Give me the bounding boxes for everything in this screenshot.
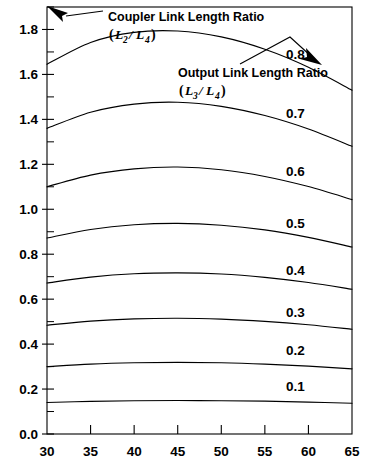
coupler-formula-denominator: L: [135, 27, 144, 42]
y-axis-tick-label: 0.6: [19, 292, 38, 307]
y-axis-tick-label: 0.8: [19, 247, 38, 262]
output-formula-close-paren: ): [221, 83, 226, 99]
coupler-formula-denominator-subscript: 4: [144, 35, 150, 45]
y-axis-tick-label: 1.6: [19, 67, 38, 82]
x-axis-tick-label: 65: [344, 444, 360, 459]
curve-label: 0.6: [286, 164, 305, 179]
coupler-formula-numerator-subscript: 2: [122, 35, 128, 45]
y-axis-tick-label: 1.8: [19, 22, 38, 37]
output-formula-denominator: L: [205, 83, 214, 98]
coupler-formula-numerator: L: [114, 27, 123, 42]
curve-label: 0.3: [286, 305, 305, 320]
curve-label: 0.2: [286, 343, 305, 358]
x-axis-tick-label: 60: [301, 444, 316, 459]
output-formula-denominator-subscript: 4: [214, 91, 220, 101]
curve-label: 0.5: [286, 216, 305, 231]
x-axis-tick-label: 40: [127, 444, 142, 459]
coupler-annotation-line1: Coupler Link Length Ratio: [108, 10, 265, 24]
x-axis-tick-label: 35: [83, 444, 99, 459]
output-formula-open-paren: (: [179, 83, 184, 99]
chart-plot-svg: 0.00.20.40.60.81.01.21.41.61.8 303540455…: [0, 0, 366, 474]
y-axis-tick-label: 1.2: [19, 157, 38, 172]
y-axis-tick-label: 0.2: [19, 382, 38, 397]
x-axis-tick-label: 30: [39, 444, 54, 459]
output-annotation-line1: Output Link Length Ratio: [178, 66, 328, 80]
y-axis-tick-label: 0.4: [19, 337, 38, 352]
x-axis-tick-label: 50: [214, 444, 229, 459]
coupler-formula-open-paren: (: [109, 27, 114, 43]
curve-label: 0.7: [286, 106, 305, 121]
y-axis-tick-label: 0.0: [19, 427, 38, 442]
x-axis-tick-label: 45: [170, 444, 186, 459]
output-formula-numerator-subscript: 3: [192, 91, 198, 101]
curve-label: 0.1: [286, 379, 305, 394]
curve-label: 0.4: [286, 263, 305, 278]
x-axis-tick-label: 55: [257, 444, 273, 459]
y-axis-tick-label: 1.4: [19, 112, 38, 127]
coupler-formula-close-paren: ): [151, 27, 156, 43]
chart-root: 0.00.20.40.60.81.01.21.41.61.8 303540455…: [0, 0, 366, 474]
output-formula-numerator: L: [184, 83, 193, 98]
y-axis-tick-label: 1.0: [19, 202, 38, 217]
curve-label: 0.8: [286, 47, 305, 62]
